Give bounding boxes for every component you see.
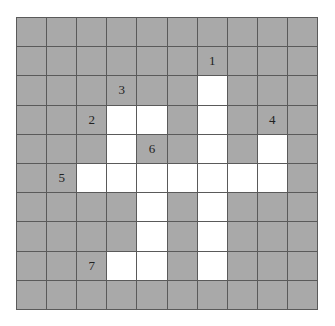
block-cell [168, 135, 198, 164]
block-cell [258, 252, 288, 281]
block-cell: 2 [77, 106, 107, 135]
block-cell [107, 222, 137, 251]
block-cell [228, 281, 258, 310]
block-cell [17, 135, 47, 164]
clue-number: 5 [47, 164, 76, 192]
block-cell [17, 18, 47, 47]
block-cell [47, 106, 77, 135]
block-cell [107, 193, 137, 222]
block-cell [47, 222, 77, 251]
block-cell [168, 106, 198, 135]
block-cell [228, 222, 258, 251]
block-cell [137, 281, 167, 310]
open-cell[interactable] [198, 76, 228, 105]
block-cell [288, 222, 318, 251]
block-cell [228, 193, 258, 222]
block-cell [258, 47, 288, 76]
block-cell [168, 193, 198, 222]
block-cell [47, 252, 77, 281]
block-cell [288, 135, 318, 164]
block-cell: 5 [47, 164, 77, 193]
block-cell [228, 135, 258, 164]
open-cell[interactable] [107, 106, 137, 135]
clue-number: 4 [258, 106, 287, 134]
block-cell [107, 18, 137, 47]
block-cell [288, 164, 318, 193]
block-cell [107, 281, 137, 310]
block-cell [168, 281, 198, 310]
open-cell[interactable] [107, 135, 137, 164]
open-cell[interactable] [258, 135, 288, 164]
block-cell [198, 18, 228, 47]
block-cell [288, 193, 318, 222]
block-cell [288, 106, 318, 135]
block-cell [77, 193, 107, 222]
block-cell [288, 76, 318, 105]
block-cell [198, 281, 228, 310]
block-cell [17, 281, 47, 310]
block-cell [258, 222, 288, 251]
block-cell [17, 106, 47, 135]
block-cell [77, 18, 107, 47]
open-cell[interactable] [198, 135, 228, 164]
block-cell: 4 [258, 106, 288, 135]
open-cell[interactable] [168, 164, 198, 193]
block-cell [258, 18, 288, 47]
block-cell: 1 [198, 47, 228, 76]
open-cell[interactable] [228, 164, 258, 193]
open-cell[interactable] [137, 222, 167, 251]
crossword-grid: 1324657 [16, 17, 318, 310]
block-cell: 6 [137, 135, 167, 164]
block-cell [288, 252, 318, 281]
clue-number: 6 [137, 135, 166, 163]
block-cell [17, 193, 47, 222]
open-cell[interactable] [198, 252, 228, 281]
block-cell [288, 18, 318, 47]
block-cell [288, 47, 318, 76]
open-cell[interactable] [198, 193, 228, 222]
open-cell[interactable] [198, 106, 228, 135]
clue-number: 2 [77, 106, 106, 134]
open-cell[interactable] [107, 252, 137, 281]
open-cell[interactable] [258, 164, 288, 193]
block-cell [17, 164, 47, 193]
block-cell [258, 76, 288, 105]
block-cell [17, 47, 47, 76]
block-cell [168, 18, 198, 47]
block-cell [228, 106, 258, 135]
block-cell [47, 47, 77, 76]
block-cell [288, 281, 318, 310]
block-cell [228, 18, 258, 47]
block-cell [228, 47, 258, 76]
clue-number: 3 [107, 76, 136, 104]
block-cell [107, 47, 137, 76]
block-cell [258, 193, 288, 222]
block-cell [228, 252, 258, 281]
open-cell[interactable] [77, 164, 107, 193]
block-cell [228, 76, 258, 105]
open-cell[interactable] [198, 164, 228, 193]
clue-number: 7 [77, 252, 106, 280]
block-cell [47, 18, 77, 47]
open-cell[interactable] [137, 252, 167, 281]
block-cell [137, 47, 167, 76]
block-cell [47, 281, 77, 310]
open-cell[interactable] [137, 193, 167, 222]
block-cell [137, 76, 167, 105]
block-cell [77, 76, 107, 105]
open-cell[interactable] [198, 222, 228, 251]
block-cell [47, 76, 77, 105]
block-cell [17, 222, 47, 251]
block-cell [168, 76, 198, 105]
block-cell [17, 252, 47, 281]
open-cell[interactable] [107, 164, 137, 193]
open-cell[interactable] [137, 106, 167, 135]
block-cell [47, 193, 77, 222]
block-cell [47, 135, 77, 164]
open-cell[interactable] [137, 164, 167, 193]
block-cell [77, 222, 107, 251]
block-cell [168, 47, 198, 76]
block-cell [137, 18, 167, 47]
block-cell: 3 [107, 76, 137, 105]
block-cell: 7 [77, 252, 107, 281]
